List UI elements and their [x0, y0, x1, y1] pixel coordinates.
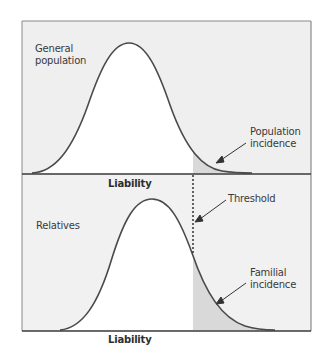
threshold-label: Threshold: [228, 193, 275, 205]
relatives-label: Relatives: [36, 220, 80, 232]
top-x-axis-label: Liability: [108, 178, 152, 189]
population-incidence-label: Population incidence: [250, 126, 301, 150]
familial-incidence-label: Familial incidence: [250, 267, 296, 291]
bottom-x-axis-label: Liability: [108, 334, 152, 345]
general-population-label: General population: [35, 43, 86, 67]
